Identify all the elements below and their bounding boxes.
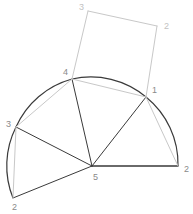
geometric-figure-canvas: 12324532 [0, 0, 193, 214]
vertex-label-p1: 1 [152, 85, 157, 95]
figure-svg: 12324532 [0, 0, 193, 214]
edge-4-to-1 [72, 79, 146, 97]
vertex-label-p3_left: 3 [6, 119, 11, 129]
edge-5-to-2bot [13, 166, 92, 198]
edge-5-to-4 [72, 79, 92, 166]
edge-3-to-2bot [13, 127, 16, 198]
vertex-label-q3: 3 [79, 2, 84, 12]
edge-1-to-2right [146, 97, 178, 166]
edge-group [13, 11, 178, 198]
edge-5-to-3 [16, 127, 92, 166]
vertex-label-q2: 2 [164, 21, 169, 31]
vertex-label-p2_bot: 2 [12, 202, 17, 212]
edge-quad-3-to-2 [88, 11, 157, 26]
vertex-label-p2_right: 2 [184, 164, 189, 174]
edge-3-to-4 [16, 79, 72, 127]
vertex-label-group: 12324532 [6, 2, 189, 212]
vertex-label-p4: 4 [63, 67, 68, 77]
edge-quad-4-to-3 [72, 11, 88, 79]
vertex-label-p5: 5 [93, 172, 98, 182]
edge-5-to-1 [92, 97, 146, 166]
